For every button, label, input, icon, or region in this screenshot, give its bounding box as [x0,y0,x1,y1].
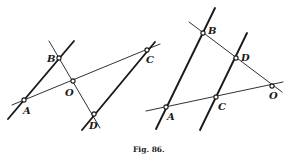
point-c-left [145,48,149,52]
label-a-right: A [166,111,175,122]
point-c-right [214,95,218,99]
left-figure: A B O C D [8,41,160,131]
point-o-right [270,84,274,88]
line-aoc-left [12,44,160,105]
right-figure: A B C D O [146,8,283,130]
point-a-right [164,105,168,109]
label-b-left: B [46,53,55,64]
point-a-left [22,98,26,102]
label-d-left: D [88,120,98,131]
label-o-right: O [269,90,278,101]
geometry-figure: A B O C D A B C D O Fig. 86. [0,0,288,161]
point-d-left [92,112,96,116]
label-d-right: D [240,52,250,63]
label-o-left: O [65,87,74,98]
line-ab-right [156,8,215,129]
point-b-right [201,31,205,35]
label-b-right: B [207,25,216,36]
label-a-left: A [22,105,31,116]
point-d-right [234,56,238,60]
point-o-left [71,79,75,83]
line-ab-left [8,41,74,119]
label-c-left: C [146,54,154,65]
point-b-left [57,56,61,60]
figure-caption: Fig. 86. [133,145,165,154]
label-c-right: C [218,101,226,112]
